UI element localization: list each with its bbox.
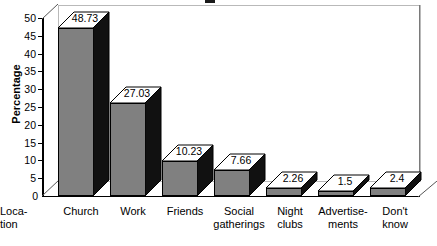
x-tick-label-dont-know: Don't know: [366, 205, 424, 230]
bar-value-label: 48.73: [63, 13, 107, 24]
bar-front-face: [266, 188, 302, 196]
bar-value-label: 7.66: [219, 155, 263, 166]
bar-front-face: [214, 170, 250, 196]
bar-value-label: 10.23: [167, 146, 211, 157]
bar-value-label: 1.5: [323, 176, 367, 187]
x-tick-label-church: Church: [52, 205, 110, 218]
bar-chart: Percentage 50 45 40 35 30 25 20 15 10 5 …: [0, 0, 437, 246]
bar-night-clubs[interactable]: 2.26: [266, 0, 318, 196]
bar-side-face: [93, 12, 110, 196]
bar-dont-know[interactable]: 2.4: [370, 0, 422, 196]
bar-social-gatherings[interactable]: 7.66: [214, 0, 266, 196]
bar-front-face: [110, 103, 146, 196]
bar-value-label: 2.26: [271, 173, 315, 184]
x-axis-title: Loca- tion: [0, 205, 44, 230]
bar-advertisements[interactable]: 1.5: [318, 0, 370, 196]
bar-work[interactable]: 27.03: [110, 0, 162, 196]
bar-value-label: 27.03: [115, 88, 159, 99]
bar-front-face: [162, 161, 198, 196]
x-tick-label-work: Work: [104, 205, 162, 218]
bar-church[interactable]: 48.73: [58, 0, 110, 196]
bar-friends[interactable]: 10.23: [162, 0, 214, 196]
bar-value-label: 2.4: [375, 173, 419, 184]
bar-front-face: [370, 188, 406, 196]
bar-front-face: [58, 28, 94, 196]
